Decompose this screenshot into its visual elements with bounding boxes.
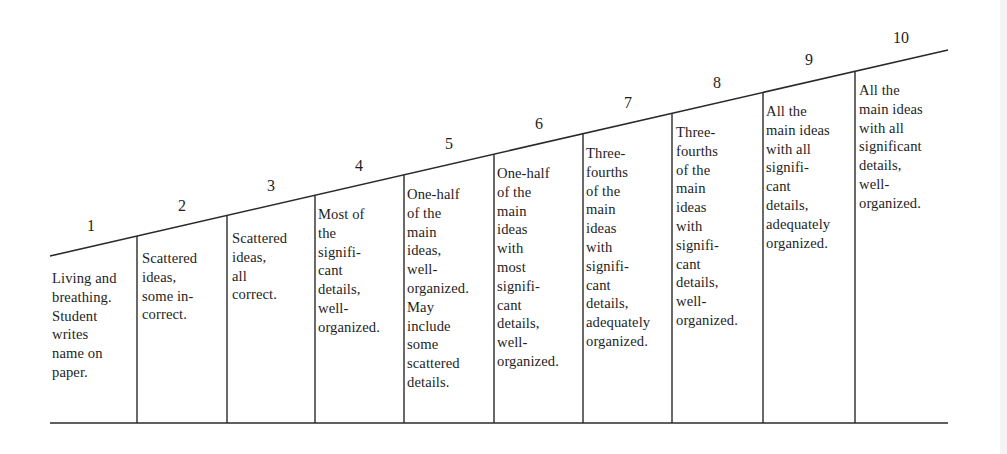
level-description: One-half of the main ideas with most sig… (497, 164, 559, 371)
level-number: 6 (524, 115, 554, 133)
rating-scale-diagram: 1 2 3 4 5 6 7 8 9 10 Living and breathin… (0, 0, 1007, 454)
level-description: All the main ideas with all signifi- can… (766, 102, 830, 252)
level-number: 5 (434, 135, 464, 153)
level-description: Scattered ideas, some in- correct. (142, 249, 197, 324)
level-number: 1 (76, 217, 106, 235)
level-description: Three- fourths of the main ideas with si… (676, 123, 738, 330)
level-number: 8 (702, 74, 732, 92)
level-description: Scattered ideas, all correct. (232, 229, 287, 304)
level-description: All the main ideas with all significant … (859, 81, 923, 213)
level-description: Three- fourths of the main ideas with si… (586, 144, 650, 351)
level-description: Most of the signifi- cant details, well-… (318, 205, 380, 337)
page-edge (1000, 0, 1007, 454)
level-number: 2 (167, 197, 197, 215)
level-number: 4 (344, 157, 374, 175)
level-description: Living and breathing. Student writes nam… (52, 269, 117, 382)
level-number: 3 (256, 177, 286, 195)
level-description: One-half of the main ideas, well- organi… (407, 185, 469, 392)
level-number: 10 (886, 29, 916, 47)
level-number: 9 (794, 51, 824, 69)
level-number: 7 (613, 94, 643, 112)
